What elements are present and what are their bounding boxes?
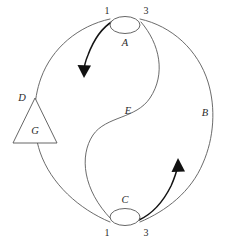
diagram-canvas: A C G 1 3 1 3 B D E bbox=[0, 0, 227, 240]
node-g-triangle[interactable] bbox=[13, 98, 57, 143]
upper-left-arrow-head bbox=[78, 65, 92, 78]
node-a-ellipse[interactable] bbox=[110, 17, 140, 34]
node-c-ellipse[interactable] bbox=[110, 209, 140, 226]
node-g-label: G bbox=[31, 125, 39, 136]
upper-left-arrow-curve bbox=[84, 21, 113, 72]
edge-e-label: E bbox=[124, 105, 132, 116]
lower-right-arrow-head bbox=[172, 158, 186, 172]
edge-b-label: B bbox=[202, 107, 209, 118]
edge-d-label: D bbox=[17, 92, 26, 103]
node-c-label: C bbox=[121, 194, 129, 205]
arc-b-right-outer bbox=[140, 19, 213, 222]
node-a-terminal-1-label: 1 bbox=[105, 5, 110, 16]
node-c-terminal-1-label: 1 bbox=[105, 227, 110, 238]
lower-right-arrow-curve bbox=[139, 165, 178, 220]
node-a-label: A bbox=[121, 37, 129, 48]
diagram-svg: A C G 1 3 1 3 B D E bbox=[0, 0, 227, 240]
node-a-terminal-3-label: 3 bbox=[144, 5, 149, 16]
node-c-terminal-3-label: 3 bbox=[144, 227, 149, 238]
arc-e-s-curve bbox=[85, 22, 159, 219]
